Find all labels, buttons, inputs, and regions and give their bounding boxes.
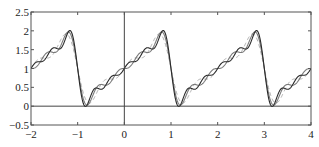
x-tick-label: 0 — [122, 128, 128, 140]
series-curves — [31, 31, 311, 107]
x-tick-label: 4 — [308, 128, 314, 140]
y-tick-label: −0.5 — [9, 119, 29, 131]
x-tick-label: 3 — [262, 128, 268, 140]
fourier-series-chart: −2−101234 −0.500.511.522.5 — [0, 0, 319, 147]
y-tick-label: 0 — [24, 100, 30, 112]
y-tick-label: 2.5 — [15, 6, 29, 18]
y-axis-ticks: −0.500.511.522.5 — [9, 6, 311, 131]
x-tick-label: 1 — [168, 128, 174, 140]
y-tick-label: 1.5 — [15, 44, 29, 56]
y-tick-label: 1 — [24, 63, 30, 75]
x-tick-label: −1 — [72, 128, 84, 140]
y-tick-label: 0.5 — [15, 81, 29, 93]
x-tick-label: 2 — [215, 128, 221, 140]
y-tick-label: 2 — [24, 25, 30, 37]
